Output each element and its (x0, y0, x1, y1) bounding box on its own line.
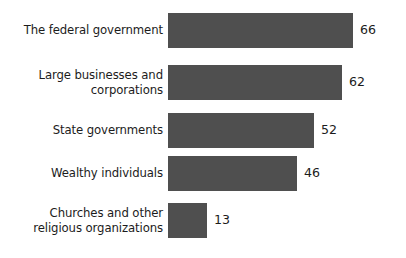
category-label: Large businesses and corporations (0, 68, 168, 97)
bar (168, 203, 207, 238)
bar-track: 66 (168, 13, 406, 48)
bar-value-label: 62 (349, 76, 365, 89)
category-label: Wealthy individuals (0, 166, 168, 181)
bar (168, 13, 353, 48)
bar-value-label: 52 (321, 124, 337, 137)
chart-row: Churches and other religious organizatio… (0, 203, 406, 238)
chart-row: State governments 52 (0, 113, 406, 148)
bar-track: 46 (168, 156, 406, 191)
bar-track: 62 (168, 65, 406, 100)
bar-track: 13 (168, 203, 406, 238)
bar-track: 52 (168, 113, 406, 148)
bar (168, 113, 314, 148)
category-label: State governments (0, 123, 168, 138)
bar-chart: The federal government 66 Large business… (0, 0, 406, 258)
bar-value-label: 13 (214, 214, 230, 227)
category-label: Churches and other religious organizatio… (0, 206, 168, 235)
bar (168, 65, 342, 100)
bar-value-label: 46 (304, 167, 320, 180)
category-label: The federal government (0, 23, 168, 38)
bar (168, 156, 297, 191)
chart-row: The federal government 66 (0, 13, 406, 48)
chart-row: Wealthy individuals 46 (0, 156, 406, 191)
bar-value-label: 66 (360, 24, 376, 37)
chart-row: Large businesses and corporations 62 (0, 65, 406, 100)
